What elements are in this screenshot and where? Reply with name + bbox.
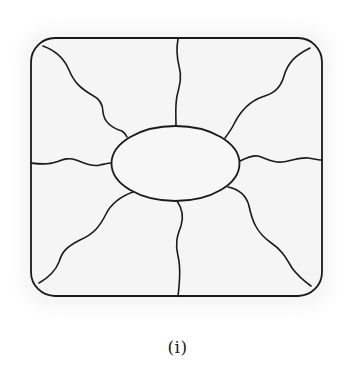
figure-caption: (i) — [0, 337, 355, 357]
center-ellipse — [112, 126, 240, 201]
diagram-figure: (i) — [0, 0, 355, 380]
diagram-canvas — [0, 0, 355, 380]
